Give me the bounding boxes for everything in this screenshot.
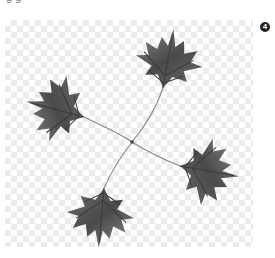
maple-leaves-illustration bbox=[5, 20, 253, 247]
leaf-image[interactable] bbox=[5, 20, 253, 247]
stems bbox=[84, 88, 180, 188]
leaf-top bbox=[131, 23, 208, 94]
image-count-badge: 4 bbox=[260, 22, 270, 32]
leaf-right bbox=[174, 134, 245, 211]
leaf-left bbox=[18, 68, 93, 149]
caption-text: g g bbox=[6, 0, 21, 3]
leaf-bottom bbox=[64, 185, 136, 247]
